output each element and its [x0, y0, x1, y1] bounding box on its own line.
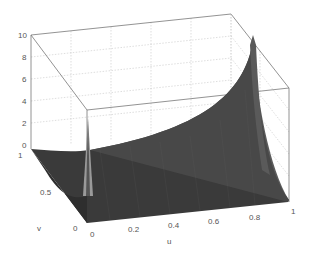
surface-mesh: [31, 35, 289, 223]
u-axis-label: u: [167, 237, 171, 246]
z-tick-10: 10: [18, 31, 27, 40]
u-tick-0: 0: [90, 230, 95, 239]
surface-plot-figure: 10 8 6 4 2 0 1 0.5 0 v 0 0.2 0.4 0.6 0.8…: [0, 0, 311, 259]
z-tick-4: 4: [22, 97, 27, 106]
surface-plot: 10 8 6 4 2 0 1 0.5 0 v 0 0.2 0.4 0.6 0.8…: [0, 0, 311, 259]
u-tick-0.2: 0.2: [128, 225, 140, 234]
v-tick-0.5: 0.5: [40, 188, 52, 197]
u-tick-0.8: 0.8: [249, 213, 261, 222]
u-tick-1: 1: [291, 207, 296, 216]
z-tick-0: 0: [22, 141, 27, 150]
z-axis-ticks: 10 8 6 4 2 0: [18, 31, 27, 150]
u-tick-0.6: 0.6: [208, 217, 220, 226]
v-tick-1: 1: [18, 151, 23, 160]
u-tick-0.4: 0.4: [168, 221, 180, 230]
z-tick-8: 8: [22, 53, 27, 62]
v-axis-label: v: [37, 224, 41, 233]
z-tick-6: 6: [22, 75, 27, 84]
z-tick-2: 2: [22, 119, 27, 128]
v-tick-0: 0: [73, 224, 78, 233]
